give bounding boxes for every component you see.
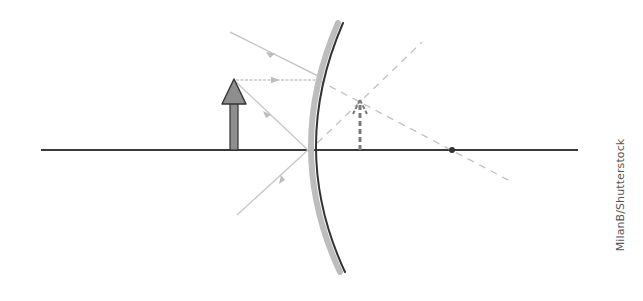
focal-point-dot <box>449 147 455 153</box>
dashed-extension-through-focus <box>318 80 512 182</box>
ray-direction-arrow-icon <box>266 52 275 58</box>
virtual-image-arrow-icon <box>353 100 367 150</box>
reflected-ray-from-pole <box>237 150 308 215</box>
incident-ray-oblique <box>230 32 318 76</box>
incident-ray-to-pole <box>236 82 308 150</box>
watermark-credit: MilanB/Shutterstock <box>614 139 627 252</box>
object-arrow-icon <box>222 79 246 150</box>
ray-direction-arrow-icon <box>271 77 279 84</box>
convex-mirror <box>311 23 345 272</box>
incident-ray-parallel <box>236 77 318 84</box>
ray-diagram <box>0 0 643 301</box>
